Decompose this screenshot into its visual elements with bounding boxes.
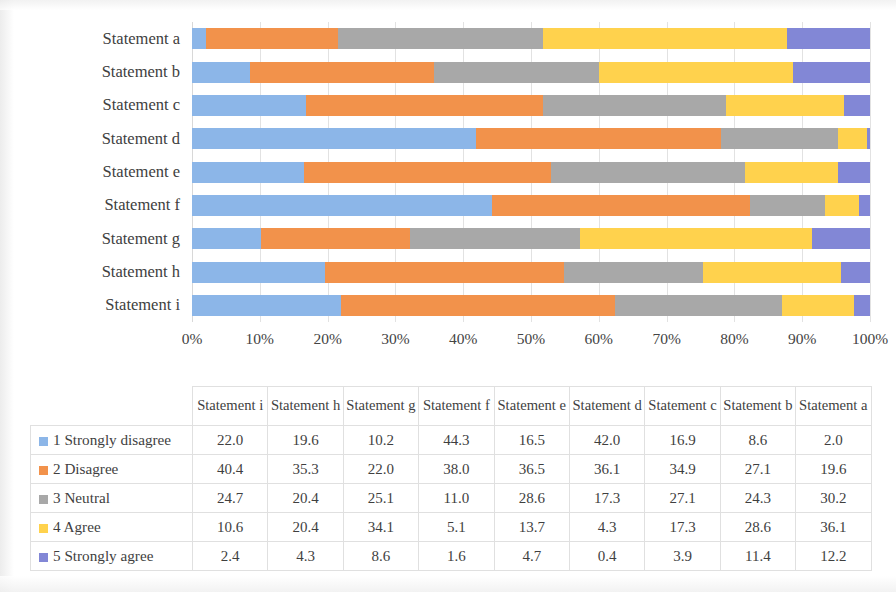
- chart-bar-segment: [782, 295, 854, 316]
- table-row: 3 Neutral24.720.425.111.028.617.327.124.…: [31, 484, 872, 513]
- chart-bar-segment: [250, 62, 434, 83]
- table-column-header: Statement e: [494, 387, 569, 426]
- chart-stacked-bar: [192, 62, 870, 83]
- table-cell-value: 19.6: [796, 455, 871, 484]
- chart-bar-row: [192, 62, 870, 83]
- chart-stacked-bar: [192, 195, 870, 216]
- table-cell-value: 24.3: [720, 484, 795, 513]
- chart-gridline: [870, 22, 871, 322]
- table-column-header: Statement g: [343, 387, 418, 426]
- table-row: 5 Strongly agree2.44.38.61.64.70.43.911.…: [31, 542, 872, 571]
- chart-category-label: Statement a: [103, 29, 180, 49]
- chart-stacked-bar: [192, 228, 870, 249]
- chart-bar-segment: [192, 28, 206, 49]
- table-cell-value: 24.7: [193, 484, 268, 513]
- table-column-header: Statement f: [419, 387, 494, 426]
- table-cell-value: 11.4: [720, 542, 795, 571]
- table-body: 1 Strongly disagree22.019.610.244.316.54…: [31, 426, 872, 571]
- chart-bar-segment: [192, 295, 341, 316]
- table-header-row: Statement iStatement hStatement gStateme…: [31, 387, 872, 426]
- table-cell-value: 0.4: [569, 542, 644, 571]
- chart-bar-row: [192, 295, 870, 316]
- table-legend-row-label: 3 Neutral: [31, 484, 193, 513]
- table-cell-value: 28.6: [494, 484, 569, 513]
- chart-category-axis-labels: Statement aStatement bStatement cStateme…: [0, 22, 186, 322]
- data-table-container: Statement iStatement hStatement gStateme…: [30, 386, 871, 571]
- chart-bar-segment: [338, 28, 543, 49]
- chart-bar-segment: [838, 128, 867, 149]
- chart-category-label: Statement b: [102, 62, 180, 82]
- chart-bar-segment: [745, 162, 838, 183]
- legend-swatch-icon: [39, 495, 48, 504]
- chart-bar-row: [192, 28, 870, 49]
- chart-category-label: Statement d: [102, 129, 180, 149]
- chart-stacked-bar: [192, 162, 870, 183]
- legend-label-text: 4 Agree: [53, 518, 101, 535]
- table-cell-value: 2.4: [193, 542, 268, 571]
- chart-category-label: Statement g: [102, 229, 180, 249]
- legend-label-text: 3 Neutral: [53, 489, 110, 506]
- chart-x-tick-label: 90%: [788, 330, 816, 348]
- chart-bar-row: [192, 162, 870, 183]
- table-cell-value: 10.2: [343, 426, 418, 455]
- stacked-bar-chart: Statement aStatement bStatement cStateme…: [0, 22, 896, 358]
- chart-bar-segment: [543, 95, 727, 116]
- chart-bar-segment: [841, 262, 870, 283]
- table-cell-value: 20.4: [268, 513, 343, 542]
- table-cell-value: 28.6: [720, 513, 795, 542]
- table-cell-value: 19.6: [268, 426, 343, 455]
- table-cell-value: 22.0: [343, 455, 418, 484]
- chart-x-tick-label: 70%: [652, 330, 680, 348]
- chart-bar-segment: [703, 262, 841, 283]
- chart-bar-segment: [206, 28, 339, 49]
- table-cell-value: 35.3: [268, 455, 343, 484]
- table-cell-value: 20.4: [268, 484, 343, 513]
- table-column-header: Statement d: [569, 387, 644, 426]
- chart-bar-segment: [306, 95, 542, 116]
- chart-bar-segment: [192, 128, 476, 149]
- table-cell-value: 44.3: [419, 426, 494, 455]
- chart-x-tick-label: 20%: [313, 330, 341, 348]
- table-cell-value: 17.3: [569, 484, 644, 513]
- chart-bar-segment: [341, 295, 615, 316]
- table-cell-value: 27.1: [720, 455, 795, 484]
- chart-bar-segment: [721, 128, 838, 149]
- chart-x-tick-label: 30%: [381, 330, 409, 348]
- legend-swatch-icon: [39, 524, 48, 533]
- chart-bar-row: [192, 228, 870, 249]
- chart-x-tick-label: 0%: [182, 330, 203, 348]
- table-column-header: Statement c: [645, 387, 720, 426]
- chart-bar-segment: [793, 62, 870, 83]
- chart-bar-segment: [812, 228, 870, 249]
- chart-bar-segment: [476, 128, 721, 149]
- chart-category-label: Statement e: [103, 162, 180, 182]
- chart-stacked-bar: [192, 95, 870, 116]
- table-cell-value: 17.3: [645, 513, 720, 542]
- chart-bar-row: [192, 195, 870, 216]
- legend-swatch-icon: [39, 437, 48, 446]
- legend-label-text: 2 Disagree: [53, 460, 118, 477]
- table-cell-value: 30.2: [796, 484, 871, 513]
- chart-plot-area: [192, 22, 870, 322]
- chart-x-tick-label: 10%: [246, 330, 274, 348]
- table-legend-row-label: 1 Strongly disagree: [31, 426, 193, 455]
- chart-bar-segment: [599, 62, 793, 83]
- table-cell-value: 16.5: [494, 426, 569, 455]
- chart-stacked-bar: [192, 28, 870, 49]
- chart-bar-segment: [325, 262, 564, 283]
- table-column-header: Statement i: [193, 387, 268, 426]
- table-cell-value: 11.0: [419, 484, 494, 513]
- chart-bar-segment: [192, 228, 261, 249]
- table-cell-value: 10.6: [193, 513, 268, 542]
- chart-bar-segment: [787, 28, 870, 49]
- chart-bar-row: [192, 95, 870, 116]
- chart-bar-segment: [410, 228, 580, 249]
- table-cell-value: 42.0: [569, 426, 644, 455]
- chart-bar-segment: [192, 95, 306, 116]
- table-cell-value: 1.6: [419, 542, 494, 571]
- table-cell-value: 25.1: [343, 484, 418, 513]
- table-cell-value: 3.9: [645, 542, 720, 571]
- table-cell-value: 2.0: [796, 426, 871, 455]
- table-cell-value: 4.7: [494, 542, 569, 571]
- table-cell-value: 36.1: [569, 455, 644, 484]
